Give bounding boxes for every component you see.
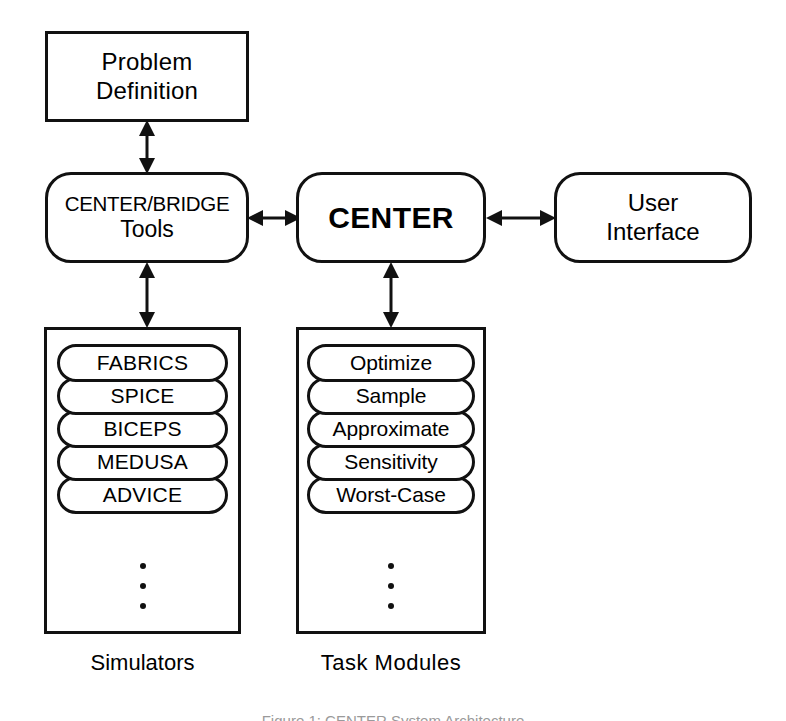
node-center-bridge-tools-label-line1: CENTER/BRIDGE [65,192,230,216]
caption-simulators: Simulators [44,650,241,676]
node-user-interface-label-line1: User [628,189,679,217]
task-module-label: Sensitivity [344,450,437,474]
list-item[interactable]: Optimize [307,344,475,382]
connector-center-to-user-interface [486,204,556,232]
diagram-canvas: Problem Definition CENTER/BRIDGE Tools C… [0,0,786,721]
caption-task-modules: Task Modules [286,650,496,676]
node-center-bridge-tools: CENTER/BRIDGE Tools [45,172,249,263]
list-item[interactable]: BICEPS [57,410,228,448]
node-problem-definition-label-line1: Problem [102,48,193,76]
list-item[interactable]: ADVICE [57,476,228,514]
simulator-label: BICEPS [103,417,181,441]
task-module-label: Optimize [350,351,432,375]
task-modules-ellipsis-icon [299,563,483,609]
connector-problem-definition-to-tools [133,120,161,174]
node-center: CENTER [296,172,486,263]
simulator-label: FABRICS [97,351,188,375]
simulators-ellipsis-icon [47,563,238,609]
connector-center-to-task-modules [377,262,405,328]
figure-caption: Figure 1: CENTER System Architecture [0,712,786,721]
connector-tools-to-center [247,204,301,232]
node-user-interface-label-line2: Interface [606,218,699,246]
container-task-modules: Optimize Sample Approximate Sensitivity … [296,327,486,634]
node-center-label: CENTER [328,200,454,235]
connector-tools-to-simulators [133,262,161,328]
simulator-label: MEDUSA [97,450,188,474]
simulators-list: FABRICS SPICE BICEPS MEDUSA ADVICE [57,344,228,514]
node-center-bridge-tools-label-line2: Tools [120,216,174,243]
simulator-label: ADVICE [103,483,182,507]
task-modules-list: Optimize Sample Approximate Sensitivity … [307,344,475,514]
node-problem-definition-label-line2: Definition [96,77,198,105]
list-item[interactable]: MEDUSA [57,443,228,481]
task-module-label: Approximate [333,417,450,441]
list-item[interactable]: SPICE [57,377,228,415]
node-user-interface: User Interface [554,172,752,263]
list-item[interactable]: Sensitivity [307,443,475,481]
list-item[interactable]: Sample [307,377,475,415]
task-module-label: Sample [356,384,427,408]
container-simulators: FABRICS SPICE BICEPS MEDUSA ADVICE [44,327,241,634]
list-item[interactable]: Approximate [307,410,475,448]
task-module-label: Worst-Case [336,483,445,507]
simulator-label: SPICE [110,384,174,408]
node-problem-definition: Problem Definition [45,31,249,122]
list-item[interactable]: FABRICS [57,344,228,382]
list-item[interactable]: Worst-Case [307,476,475,514]
